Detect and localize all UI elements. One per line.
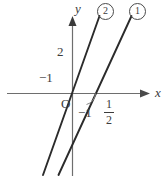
y-tick-label-2: 2 — [57, 45, 64, 58]
x-intercept-fraction-one-half: 1 2 — [104, 98, 114, 126]
coordinate-plane-figure: y x O 2 −1 −1 1 2 2 1 — [0, 0, 167, 184]
y-axis-arrowhead — [69, 16, 77, 26]
x-axis — [7, 90, 150, 98]
origin-label: O — [61, 97, 70, 110]
x-axis-arrowhead — [140, 90, 150, 98]
fraction-numerator: 1 — [104, 98, 114, 111]
line-two-circled-label: 2 — [97, 3, 114, 20]
fraction-denominator: 2 — [104, 114, 114, 127]
line-one-circled-label: 1 — [129, 3, 146, 20]
line-two-graph — [43, 16, 100, 175]
x-axis-label: x — [155, 86, 161, 99]
x-tick-label-minus-1: −1 — [39, 71, 53, 84]
y-axis-label: y — [75, 2, 81, 15]
y-tick-label-minus-1: −1 — [78, 106, 92, 119]
figure-canvas — [0, 0, 167, 184]
